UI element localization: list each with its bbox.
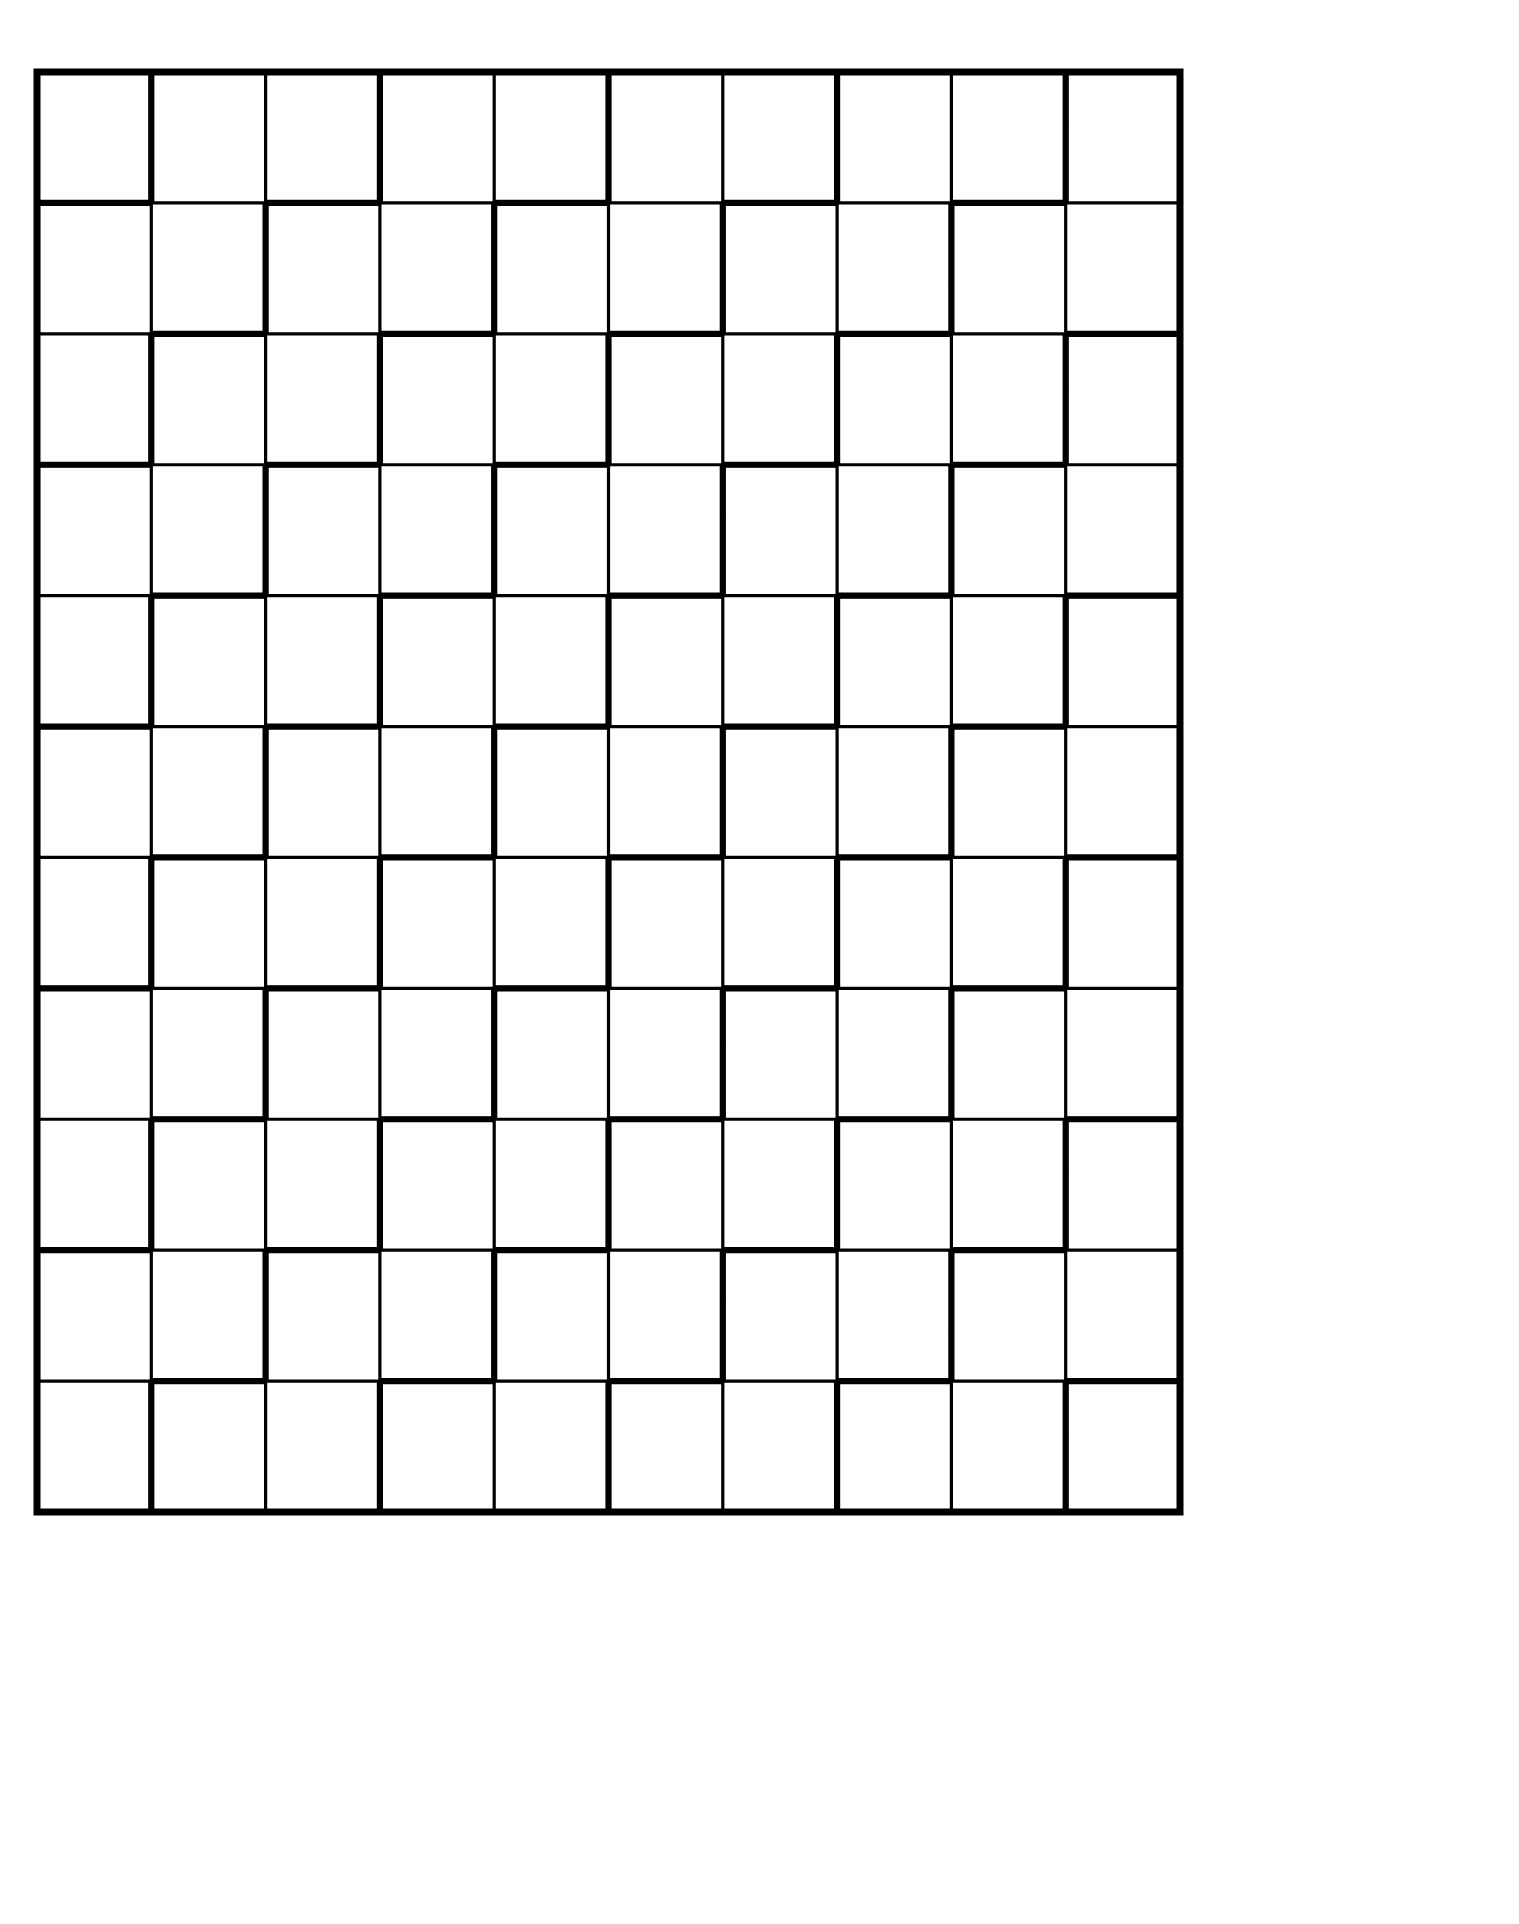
page-background [0, 0, 1519, 1924]
fan-tessellation-svg [0, 0, 1519, 1924]
page-root [0, 0, 1519, 1924]
pattern-artboard [0, 0, 1519, 1924]
